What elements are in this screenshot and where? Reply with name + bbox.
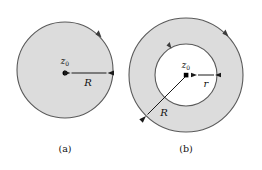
panel-a bbox=[17, 22, 114, 118]
panel-b bbox=[129, 18, 243, 132]
panel-a-radius-label: R bbox=[83, 77, 92, 88]
panel-b-center-point-dot bbox=[184, 73, 189, 78]
panel-b-inner-radius-label: r bbox=[204, 78, 210, 89]
panel-b-inner-radius-arrowhead-left-icon bbox=[191, 73, 197, 78]
panel-a-center-label-subscript: 0 bbox=[65, 60, 69, 67]
panel-b-center-label: z0 bbox=[181, 60, 190, 71]
figure-canvas: z0 R (a) z0 r R (b) bbox=[0, 0, 262, 170]
panel-b-caption: (b) bbox=[179, 143, 193, 154]
panel-a-caption: (a) bbox=[58, 143, 71, 154]
panel-b-outer-radius-label: R bbox=[159, 107, 168, 118]
figure-container: z0 R (a) z0 r R (b) bbox=[0, 0, 262, 170]
panel-b-center-label-subscript: 0 bbox=[186, 64, 190, 71]
